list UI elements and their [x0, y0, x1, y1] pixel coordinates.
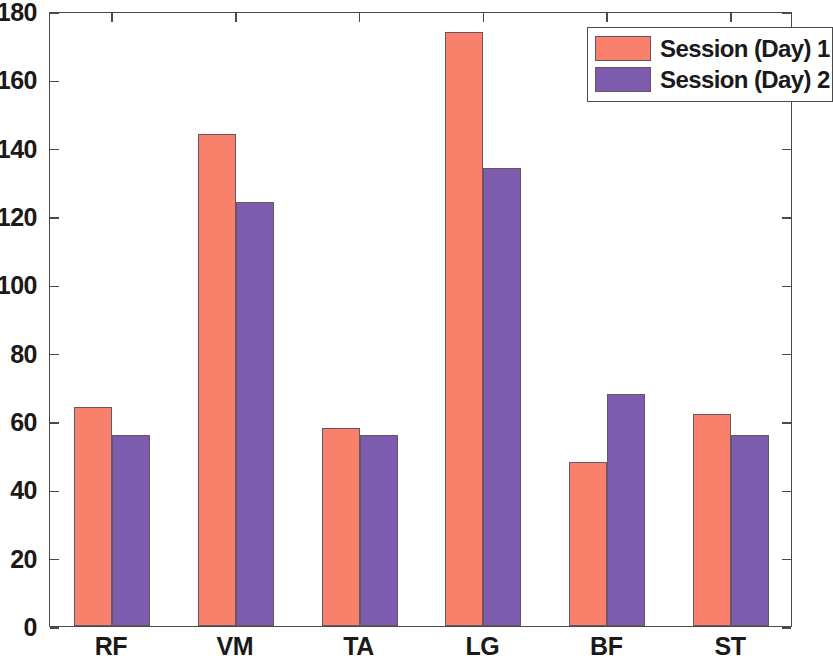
- y-tick-label-100: 100: [0, 271, 37, 300]
- y-tick-mark: [50, 149, 59, 151]
- y-tick-mark-right: [782, 149, 791, 151]
- bar-lg-series-1: [445, 32, 483, 627]
- y-tick-mark: [50, 12, 59, 14]
- x-tick-label-lg: LG: [466, 632, 500, 661]
- y-tick-mark-right: [782, 12, 791, 14]
- y-tick-mark: [50, 217, 59, 219]
- legend-swatch-icon-session-1: [595, 36, 651, 61]
- y-tick-mark-right: [782, 354, 791, 356]
- x-tick-label-vm: VM: [217, 632, 254, 661]
- y-tick-mark-right: [782, 286, 791, 288]
- y-tick-mark-right: [782, 422, 791, 424]
- x-tick-mark-top-BF: [606, 13, 608, 22]
- x-tick-label-rf: RF: [95, 632, 127, 661]
- y-tick-label-40: 40: [10, 476, 37, 505]
- y-tick-mark: [50, 286, 59, 288]
- y-tick-mark: [50, 491, 59, 493]
- legend-label-session-1: Session (Day) 1: [660, 35, 830, 63]
- y-tick-mark-right: [782, 217, 791, 219]
- bar-ta-series-2: [360, 435, 398, 626]
- y-tick-mark: [50, 422, 59, 424]
- x-tick-mark-top-VM: [235, 13, 237, 22]
- y-tick-mark: [50, 81, 59, 83]
- x-tick-mark-top-LG: [483, 13, 485, 22]
- bar-bf-series-2: [607, 394, 645, 626]
- y-tick-label-20: 20: [10, 544, 37, 573]
- plot-area: Session (Day) 1 Session (Day) 2: [49, 12, 792, 627]
- x-axis-tick-labels: RFVMTALGBFST: [49, 632, 792, 665]
- y-tick-label-0: 0: [24, 613, 37, 642]
- legend-label-session-2: Session (Day) 2: [660, 66, 830, 94]
- legend-item-session-1: Session (Day) 1: [595, 33, 825, 64]
- y-tick-label-180: 180: [0, 0, 37, 27]
- bar-st-series-1: [693, 414, 731, 626]
- bar-rf-series-2: [112, 435, 150, 626]
- x-tick-label-ta: TA: [343, 632, 373, 661]
- bar-bf-series-1: [569, 462, 607, 626]
- y-tick-label-140: 140: [0, 134, 37, 163]
- y-tick-label-60: 60: [10, 408, 37, 437]
- bar-ta-series-1: [322, 428, 360, 626]
- y-tick-mark: [50, 354, 59, 356]
- y-tick-label-80: 80: [10, 339, 37, 368]
- legend-swatch-icon-session-2: [595, 67, 651, 92]
- x-tick-mark-top-RF: [111, 13, 113, 22]
- bar-st-series-2: [731, 435, 769, 626]
- y-tick-mark: [50, 559, 59, 561]
- x-tick-mark-top-TA: [359, 13, 361, 22]
- legend-item-session-2: Session (Day) 2: [595, 64, 825, 95]
- y-tick-mark-right: [782, 559, 791, 561]
- bar-rf-series-1: [74, 407, 112, 626]
- x-tick-mark-top-ST: [730, 13, 732, 22]
- chart-legend: Session (Day) 1 Session (Day) 2: [587, 27, 833, 102]
- y-tick-mark-right: [782, 627, 791, 629]
- y-tick-label-160: 160: [0, 66, 37, 95]
- bar-vm-series-2: [236, 202, 274, 626]
- y-tick-mark-right: [782, 491, 791, 493]
- bar-lg-series-2: [483, 168, 521, 626]
- bar-vm-series-1: [198, 134, 236, 626]
- x-tick-label-st: ST: [715, 632, 746, 661]
- y-tick-mark: [50, 627, 59, 629]
- y-tick-label-120: 120: [0, 203, 37, 232]
- x-tick-label-bf: BF: [590, 632, 622, 661]
- y-axis-tick-labels: 020406080100120140160180: [0, 12, 43, 627]
